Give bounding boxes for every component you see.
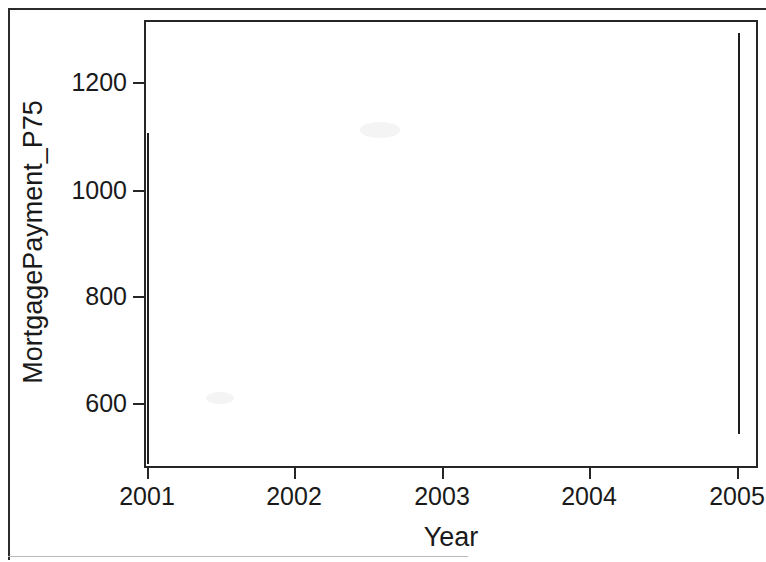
y-tick-mark-1200 [133,82,144,84]
y-tick-label-600: 600 [85,391,127,416]
x-tick-label-2005: 2005 [709,484,765,509]
x-tick-mark-2001 [147,468,149,479]
x-axis-title: Year [144,524,758,551]
x-tick-label-2001: 2001 [119,484,175,509]
x-tick-mark-2003 [442,468,444,479]
y-tick-label-1200: 1200 [71,70,127,95]
y-tick-mark-600 [133,403,144,405]
chart-figure: MortgagePayment_P75 1200 1000 800 600 20… [0,0,766,562]
plot-panel [144,20,758,468]
y-tick-mark-1000 [133,190,144,192]
x-tick-mark-2004 [589,468,591,479]
page-border-top [8,8,766,10]
y-axis-title: MortgagePayment_P75 [20,72,47,412]
x-tick-label-2003: 2003 [414,484,470,509]
y-tick-label-800: 800 [85,284,127,309]
y-tick-mark-800 [133,296,144,298]
scan-artifact [206,392,234,404]
scan-artifact [360,122,400,138]
x-tick-label-2004: 2004 [561,484,617,509]
x-tick-label-2002: 2002 [266,484,322,509]
data-range-bar-2005 [738,33,740,434]
y-tick-label-1000: 1000 [71,178,127,203]
data-range-bar-2001 [147,133,149,464]
x-tick-mark-2002 [294,468,296,479]
page-border-left [8,8,10,560]
page-border-bottom [8,556,468,557]
x-tick-mark-2005 [737,468,739,479]
